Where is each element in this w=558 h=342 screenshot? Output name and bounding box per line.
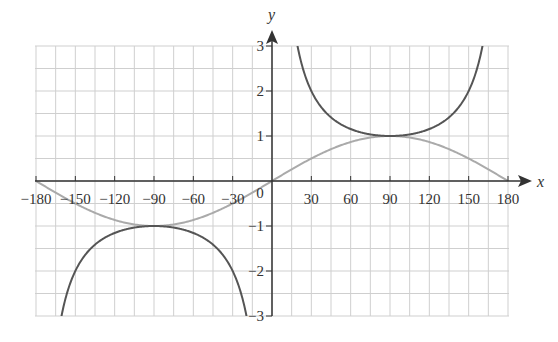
x-tick-label: −90 (142, 191, 165, 207)
x-tick-label: −180 (21, 191, 52, 207)
x-tick-label: 60 (343, 191, 358, 207)
x-tick-label: −120 (99, 191, 130, 207)
origin-label: 0 (256, 185, 264, 201)
y-tick-label: 1 (257, 128, 265, 144)
x-tick-label: −30 (221, 191, 244, 207)
x-tick-label: 30 (304, 191, 319, 207)
y-tick-label: −2 (248, 263, 264, 279)
y-axis-label: y (266, 6, 276, 24)
y-tick-label: −3 (248, 308, 264, 324)
y-tick-label: −1 (248, 218, 264, 234)
tick-labels: −180−150−120−90−60−30306090120150180−3−2… (21, 6, 545, 324)
x-tick-label: −60 (182, 191, 205, 207)
chart: −180−150−120−90−60−30306090120150180−3−2… (0, 0, 558, 342)
x-tick-label: 180 (497, 191, 520, 207)
x-tick-label: −150 (60, 191, 91, 207)
x-tick-label: 90 (383, 191, 398, 207)
y-tick-label: 2 (257, 83, 265, 99)
x-axis-label: x (536, 173, 544, 190)
x-tick-label: 150 (457, 191, 480, 207)
y-tick-label: 3 (257, 38, 265, 54)
x-tick-label: 120 (418, 191, 441, 207)
